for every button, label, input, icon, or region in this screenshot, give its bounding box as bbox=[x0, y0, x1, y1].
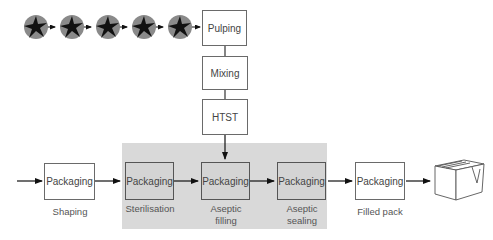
process-step-htst: HTST bbox=[202, 99, 248, 135]
caption-line: Aseptic bbox=[262, 203, 342, 215]
step-label: Packaging bbox=[46, 176, 93, 187]
fruit-icon bbox=[59, 14, 85, 40]
packaging-step-filled-pack: Packaging bbox=[355, 162, 405, 200]
step-label: Packaging bbox=[202, 176, 249, 187]
step-label: Packaging bbox=[126, 176, 173, 187]
packaging-step-aseptic-sealing: Packaging bbox=[277, 162, 326, 200]
step-label: Packaging bbox=[357, 176, 404, 187]
caption-aseptic-filling: Aseptic filling bbox=[186, 203, 266, 227]
packaging-step-shaping: Packaging bbox=[44, 163, 95, 200]
process-step-pulping: Pulping bbox=[202, 10, 247, 46]
fruit-icon bbox=[95, 14, 121, 40]
packaging-step-aseptic-filling: Packaging bbox=[201, 162, 250, 200]
caption-aseptic-sealing: Aseptic sealing bbox=[262, 203, 342, 227]
fruit-icon bbox=[131, 14, 157, 40]
fruit-icon bbox=[167, 14, 193, 40]
step-label: Mixing bbox=[211, 68, 240, 79]
caption-filled-pack: Filled pack bbox=[340, 206, 420, 218]
packaging-step-sterilisation: Packaging bbox=[125, 162, 174, 200]
caption-line: Aseptic bbox=[186, 203, 266, 215]
step-label: HTST bbox=[212, 112, 238, 123]
caption-shaping: Shaping bbox=[30, 206, 110, 218]
step-label: Packaging bbox=[278, 176, 325, 187]
caption-sterilisation: Sterilisation bbox=[110, 203, 190, 215]
caption-line: filling bbox=[186, 215, 266, 227]
carton-box-icon bbox=[432, 158, 492, 208]
fruit-icon bbox=[23, 14, 49, 40]
step-label: Pulping bbox=[208, 23, 241, 34]
process-step-mixing: Mixing bbox=[202, 56, 248, 90]
caption-line: sealing bbox=[262, 215, 342, 227]
